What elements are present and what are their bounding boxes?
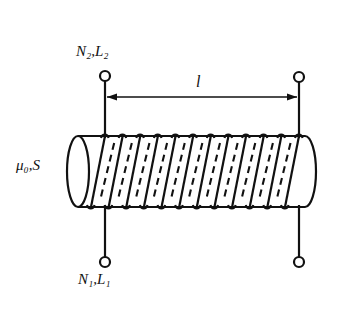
top-terminal-label: N₂,L₂: [76, 44, 109, 59]
terminal-node-top-left: [100, 71, 110, 81]
figure-root: N₂,L₂ N₁,L₁ μ₀,S l: [0, 0, 342, 314]
terminal-node-top-right: [294, 72, 304, 82]
terminal-node-bottom-left: [100, 257, 110, 267]
core-permeability-label: μ₀,S: [16, 158, 40, 173]
length-dimension-label: l: [196, 74, 200, 90]
solenoid-diagram: [0, 0, 342, 314]
bottom-terminal-label: N₁,L₁: [78, 272, 111, 287]
terminal-node-bottom-right: [294, 257, 304, 267]
